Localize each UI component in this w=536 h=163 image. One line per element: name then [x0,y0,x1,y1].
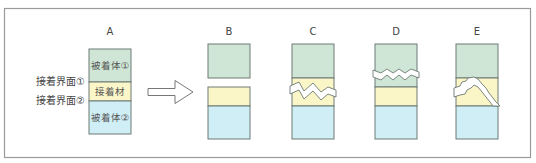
interface-2-label: 接着界面② [36,94,85,106]
adhesive-layer [208,87,250,106]
adherend-2-label: 被着体② [91,112,130,123]
panel-label-a: A [107,26,114,37]
adherend-1-label: 被着体① [91,60,130,71]
adhesive-label: 接着材 [95,86,125,97]
adherend-2-block [375,106,417,139]
adherend-2-block [456,106,498,139]
adherend-2-block [208,106,250,139]
panel-label-d: D [392,26,400,37]
adherend-1-block [292,44,334,78]
panel-label-b: B [226,26,233,37]
interface-1-label: 接着界面① [36,75,85,87]
panel-label-c: C [310,26,317,37]
panel-label-e: E [474,26,480,37]
adherend-2-block [292,106,334,139]
adherend-1-block [208,44,250,78]
adherend-1-block [375,44,417,87]
adherend-1-block [456,44,498,78]
adhesion-failure-diagram: A 被着体① 接着材 被着体② 接着界面① 接着界面② B C D E [0,0,536,163]
adhesive-layer [375,87,417,106]
